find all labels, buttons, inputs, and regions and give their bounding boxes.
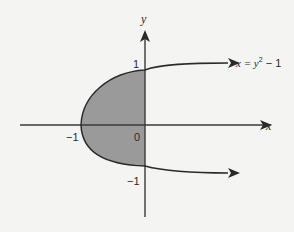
x-axis-label: x [265, 119, 272, 133]
y-axis-label: y [140, 12, 147, 26]
diagram-canvas: y x 1 −1 −1 0 x = y2 − 1 [0, 0, 294, 232]
curve-label-suffix: − 1 [263, 57, 282, 69]
shaded-region [81, 70, 145, 166]
tick-x-neg-one: −1 [66, 131, 79, 143]
lower-branch-arrow-icon [228, 168, 240, 178]
curve-label-prefix: x = y [235, 57, 259, 69]
tick-y-one: 1 [133, 58, 139, 70]
tick-origin: 0 [134, 131, 140, 143]
curve-equation-label: x = y2 − 1 [235, 56, 281, 69]
parabola-graph: y x 1 −1 −1 0 x = y2 − 1 [0, 0, 294, 232]
tick-y-neg-one: −1 [127, 175, 140, 187]
